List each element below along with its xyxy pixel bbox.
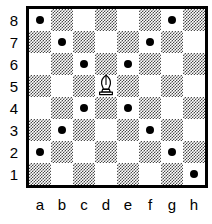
square-g5[interactable]: [161, 75, 183, 97]
move-dot-a2: [36, 148, 44, 156]
square-e5[interactable]: [117, 75, 139, 97]
square-e7[interactable]: [117, 31, 139, 53]
rank-label-5: 5: [4, 75, 24, 97]
square-d2[interactable]: [95, 141, 117, 163]
square-f4[interactable]: [139, 97, 161, 119]
square-d3[interactable]: [95, 119, 117, 141]
file-label-f: f: [139, 192, 161, 216]
square-c1[interactable]: [73, 163, 95, 185]
square-g3[interactable]: [161, 119, 183, 141]
square-a7[interactable]: [29, 31, 51, 53]
square-a5[interactable]: [29, 75, 51, 97]
square-h6[interactable]: [183, 53, 205, 75]
file-label-c: c: [73, 192, 95, 216]
square-c7[interactable]: [73, 31, 95, 53]
square-a4[interactable]: [29, 97, 51, 119]
move-dot-c6: [80, 60, 88, 68]
square-c3[interactable]: [73, 119, 95, 141]
move-dot-e4: [124, 104, 132, 112]
square-f3[interactable]: [139, 119, 161, 141]
square-e3[interactable]: [117, 119, 139, 141]
square-f7[interactable]: [139, 31, 161, 53]
square-a6[interactable]: [29, 53, 51, 75]
square-h8[interactable]: [183, 9, 205, 31]
square-h2[interactable]: [183, 141, 205, 163]
square-h7[interactable]: [183, 31, 205, 53]
square-d6[interactable]: [95, 53, 117, 75]
square-g8[interactable]: [161, 9, 183, 31]
move-dot-f3: [146, 126, 154, 134]
square-g4[interactable]: [161, 97, 183, 119]
square-a8[interactable]: [29, 9, 51, 31]
move-dot-f7: [146, 38, 154, 46]
square-h4[interactable]: [183, 97, 205, 119]
square-c4[interactable]: [73, 97, 95, 119]
rank-label-6: 6: [4, 53, 24, 75]
square-a3[interactable]: [29, 119, 51, 141]
square-g6[interactable]: [161, 53, 183, 75]
square-e1[interactable]: [117, 163, 139, 185]
square-b7[interactable]: [51, 31, 73, 53]
square-c6[interactable]: [73, 53, 95, 75]
file-label-e: e: [117, 192, 139, 216]
chess-board[interactable]: [29, 9, 205, 185]
square-b4[interactable]: [51, 97, 73, 119]
rank-label-3: 3: [4, 119, 24, 141]
move-dot-e6: [124, 60, 132, 68]
square-a2[interactable]: [29, 141, 51, 163]
square-g1[interactable]: [161, 163, 183, 185]
square-f8[interactable]: [139, 9, 161, 31]
square-c8[interactable]: [73, 9, 95, 31]
move-dot-g8: [168, 16, 176, 24]
square-f6[interactable]: [139, 53, 161, 75]
move-dot-g2: [168, 148, 176, 156]
move-dot-b7: [58, 38, 66, 46]
rank-label-8: 8: [4, 9, 24, 31]
square-b6[interactable]: [51, 53, 73, 75]
square-d8[interactable]: [95, 9, 117, 31]
rank-label-4: 4: [4, 97, 24, 119]
move-dot-c4: [80, 104, 88, 112]
rank-label-column: 87654321: [4, 9, 24, 185]
square-g2[interactable]: [161, 141, 183, 163]
square-f5[interactable]: [139, 75, 161, 97]
square-d4[interactable]: [95, 97, 117, 119]
chess-diagram: 87654321 abcdefgh: [0, 0, 212, 224]
square-b2[interactable]: [51, 141, 73, 163]
square-c5[interactable]: [73, 75, 95, 97]
square-h5[interactable]: [183, 75, 205, 97]
file-label-d: d: [95, 192, 117, 216]
square-h3[interactable]: [183, 119, 205, 141]
square-e8[interactable]: [117, 9, 139, 31]
file-label-b: b: [51, 192, 73, 216]
move-dot-a8: [36, 16, 44, 24]
square-h1[interactable]: [183, 163, 205, 185]
square-f1[interactable]: [139, 163, 161, 185]
board-border: [26, 6, 208, 188]
rank-label-7: 7: [4, 31, 24, 53]
square-b1[interactable]: [51, 163, 73, 185]
rank-label-2: 2: [4, 141, 24, 163]
square-e2[interactable]: [117, 141, 139, 163]
square-e4[interactable]: [117, 97, 139, 119]
square-b3[interactable]: [51, 119, 73, 141]
file-label-row: abcdefgh: [29, 192, 205, 216]
square-d5[interactable]: [95, 75, 117, 97]
move-dot-h1: [190, 170, 198, 178]
file-label-a: a: [29, 192, 51, 216]
square-b5[interactable]: [51, 75, 73, 97]
square-e6[interactable]: [117, 53, 139, 75]
square-g7[interactable]: [161, 31, 183, 53]
move-dot-b3: [58, 126, 66, 134]
square-a1[interactable]: [29, 163, 51, 185]
white-bishop-icon[interactable]: [95, 72, 117, 98]
rank-label-1: 1: [4, 163, 24, 185]
file-label-h: h: [183, 192, 205, 216]
square-c2[interactable]: [73, 141, 95, 163]
file-label-g: g: [161, 192, 183, 216]
square-d1[interactable]: [95, 163, 117, 185]
square-d7[interactable]: [95, 31, 117, 53]
square-b8[interactable]: [51, 9, 73, 31]
square-f2[interactable]: [139, 141, 161, 163]
